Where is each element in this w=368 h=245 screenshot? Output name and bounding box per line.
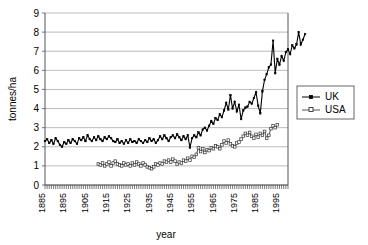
x-tick-label: 1885 [37,193,47,213]
y-tick-label: 6 [33,65,39,76]
y-tick-label: 1 [33,160,39,171]
x-axis-minor-ticks [45,185,288,189]
y-tick-label: 9 [33,8,39,19]
y-tick-label: 2 [33,141,39,152]
x-tick-label: 1935 [144,193,154,213]
x-axis-title: year [156,229,176,240]
y-tick-label: 4 [33,103,39,114]
y-tick-label: 7 [33,46,39,57]
x-tick-label: 1975 [229,193,239,213]
x-tick-label: 1985 [250,193,260,213]
x-tick-label: 1915 [101,193,111,213]
y-axis-tick-labels: 0123456789 [33,8,39,191]
legend-marker-usa [309,108,313,112]
legend-label-usa: USA [325,104,346,115]
x-tick-label: 1895 [58,193,68,213]
x-tick-label: 1925 [122,193,132,213]
chart-container: 0123456789 18851895190519151925193519451… [0,0,368,245]
y-tick-label: 8 [33,27,39,38]
legend-marker-uk [310,96,313,99]
legend-box: UK USA [297,86,354,119]
x-axis-tick-labels: 1885189519051915192519351945195519651975… [37,193,281,213]
line-chart: 0123456789 18851895190519151925193519451… [0,0,368,245]
gridlines [45,13,288,166]
x-tick-label: 1945 [165,193,175,213]
y-tick-label: 5 [33,84,39,95]
x-tick-label: 1995 [271,193,281,213]
series-markers-uk [44,31,306,148]
legend-label-uk: UK [325,91,339,102]
y-axis-title: tonnes/ha [7,77,18,121]
x-tick-label: 1905 [80,193,90,213]
x-tick-label: 1965 [208,193,218,213]
y-tick-label: 0 [33,180,39,191]
y-tick-label: 3 [33,122,39,133]
x-tick-label: 1955 [186,193,196,213]
